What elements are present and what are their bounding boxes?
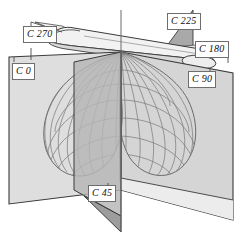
label-c90: C 90 xyxy=(188,71,216,88)
c45-plane xyxy=(74,52,121,232)
label-c45: C 45 xyxy=(88,185,116,202)
label-c270: C 270 xyxy=(23,26,57,43)
photometric-c-plane-diagram: C 270 C 225 C 180 C 0 C 90 C 45 xyxy=(0,0,243,240)
label-c225: C 225 xyxy=(167,13,201,30)
label-c0: C 0 xyxy=(12,63,35,80)
label-c180: C 180 xyxy=(195,41,229,58)
